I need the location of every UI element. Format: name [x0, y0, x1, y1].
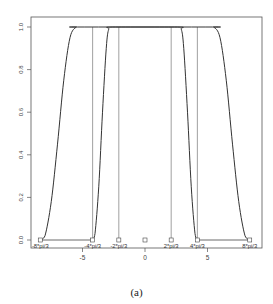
point-marker	[248, 238, 252, 242]
plot-border	[31, 17, 262, 248]
axes: 0.00.20.40.60.81.0-505	[18, 22, 210, 261]
reference-lines	[40, 27, 249, 240]
point-label: 2*pi/3	[164, 243, 179, 249]
point-marker	[117, 238, 121, 242]
series-curve	[40, 27, 249, 240]
point-marker	[195, 238, 199, 242]
x-tick-label: 0	[143, 254, 147, 261]
y-tick-label: 0.6	[18, 107, 24, 116]
x-tick-label: 5	[206, 254, 210, 261]
y-tick-label: 0.4	[18, 150, 24, 159]
point-marker	[38, 238, 42, 242]
point-marker	[169, 238, 173, 242]
x-tick-label: -5	[80, 254, 86, 261]
figure-caption: (a)	[0, 286, 273, 298]
y-tick-label: 0.0	[18, 235, 24, 244]
point-label: -2*pi/3	[110, 243, 127, 249]
point-label: 8*pi/3	[242, 243, 257, 249]
series-curves	[40, 27, 249, 240]
plot-frame	[31, 17, 262, 248]
y-tick-label: 0.8	[18, 65, 24, 74]
y-tick-label: 1.0	[18, 22, 24, 31]
point-marker	[91, 238, 95, 242]
y-tick-label: 0.2	[18, 193, 24, 202]
point-label: 4*pi/3	[190, 243, 205, 249]
point-label: -8*pi/3	[32, 243, 49, 249]
point-marker	[143, 238, 147, 242]
series-curve	[93, 27, 198, 240]
point-label: -4*pi/3	[84, 243, 101, 249]
window-function-chart: 0.00.20.40.60.81.0-505 -8*pi/3-4*pi/3-2*…	[0, 0, 273, 304]
